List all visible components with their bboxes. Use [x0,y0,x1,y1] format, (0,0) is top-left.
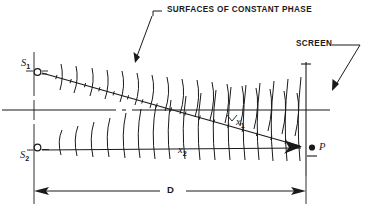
figure-canvas: SURFACES OF CONSTANT PHASE SCREEN S1 S2 … [0,0,376,215]
dimension-d-label: D [167,185,174,195]
source-2-subscript: 2 [25,154,29,163]
path-length-x1-label: x1 [236,117,245,129]
x2-subscript: 2 [183,149,187,158]
path-length-x2-label: x2 [178,145,187,157]
screen-label: SCREEN [296,40,332,48]
interference-diagram [0,0,376,215]
source-2-marker [27,144,49,151]
source-2-label: S2 [20,150,29,162]
surfaces-leader-line [134,11,163,63]
screen-leader-line [332,45,360,91]
surfaces-of-constant-phase-label: SURFACES OF CONSTANT PHASE [167,6,312,14]
source-1-subscript: 1 [26,62,30,71]
wavefronts-source-1 [60,64,299,136]
ray-from-source-2 [42,148,301,150]
screen-line [301,62,317,176]
ray-from-source-1 [42,73,302,154]
point-p-marker [309,144,315,150]
x1-subscript: 1 [241,121,245,130]
source-1-label: S1 [21,58,30,70]
point-p-label: P [319,142,325,153]
